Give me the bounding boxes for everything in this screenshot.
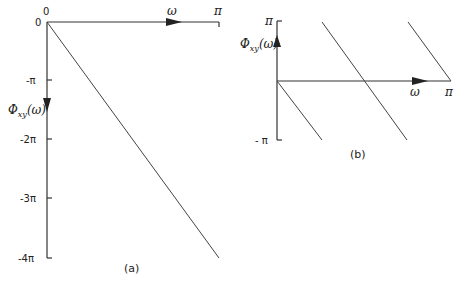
panel-b-x-end-label: π [444,85,454,99]
panel-b-x-axis-label: ω [410,85,420,99]
panel-b-phase-segment-1 [277,81,322,140]
panel-a-origin-x-label: 0 [43,6,49,17]
panel-a-x-end-label: π [213,4,223,18]
panel-b: π - π ω π Φxy(ω) (b) [240,14,454,161]
panel-a-y-axis-label: Φxy(ω) [8,103,46,119]
panel-a-tick-label-minus-2pi: -2π [20,134,36,145]
figure: 0 0 ω π -π -2π -3π -4π Φxy(ω) (a) π - π … [0,0,457,284]
panel-b-y-axis-label: Φxy(ω) [240,37,278,53]
panel-b-phase-segment-3 [408,22,451,81]
panel-b-x-arrow-icon [412,77,428,85]
panel-a: 0 0 ω π -π -2π -3π -4π Φxy(ω) (a) [8,4,223,275]
panel-a-tick-label-minus-pi: -π [26,75,36,86]
panel-b-caption: (b) [350,148,366,161]
panel-a-caption: (a) [124,262,139,275]
panel-a-tick-label-minus-3pi: -3π [20,193,36,204]
panel-b-bottom-label: - π [255,135,268,146]
panel-b-top-label: π [264,14,274,28]
panel-a-tick-label-minus-4pi: -4π [18,253,34,264]
panel-a-x-axis-label: ω [167,4,177,18]
panel-a-x-arrow-icon [166,18,182,26]
panel-a-origin-y-label: 0 [35,17,41,28]
panel-a-phase-line [47,22,219,258]
